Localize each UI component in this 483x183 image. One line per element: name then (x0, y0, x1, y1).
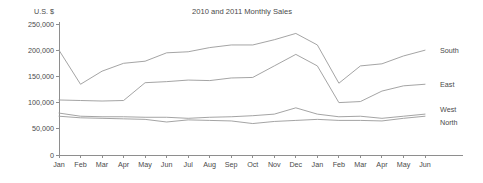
series-label-west: West (440, 105, 456, 114)
x-tick-label: Aug (203, 160, 216, 169)
chart-canvas: 2010 and 2011 Monthly SalesU.S. $050,000… (0, 0, 483, 183)
x-tick-label: Jan (312, 160, 324, 169)
sales-line-chart: 2010 and 2011 Monthly SalesU.S. $050,000… (0, 0, 483, 183)
x-tick-label: Mar (96, 160, 109, 169)
series-label-east: East (440, 80, 454, 89)
y-tick-label: 150,000 (28, 72, 54, 81)
x-tick-label: May (397, 160, 411, 169)
series-line-south (59, 33, 425, 84)
y-tick-label: 100,000 (28, 98, 54, 107)
x-tick-label: Jan (53, 160, 65, 169)
x-tick-label: Feb (74, 160, 86, 169)
y-axis-unit-label: U.S. $ (34, 7, 54, 16)
series-line-east (59, 54, 425, 102)
series-label-north: North (440, 118, 458, 127)
x-tick-label: Oct (247, 160, 258, 169)
series-line-west (59, 108, 425, 118)
y-tick-label: 200,000 (28, 46, 54, 55)
x-tick-label: Dec (289, 160, 302, 169)
x-tick-label: Apr (376, 160, 388, 169)
y-tick-label: 50,000 (32, 124, 54, 133)
x-tick-label: Nov (268, 160, 281, 169)
series-label-south: South (440, 46, 459, 55)
x-tick-label: Apr (118, 160, 130, 169)
x-tick-label: Jun (419, 160, 431, 169)
chart-title: 2010 and 2011 Monthly Sales (192, 7, 292, 16)
y-tick-label: 250,000 (28, 20, 54, 29)
x-tick-label: Sep (225, 160, 238, 169)
x-tick-label: Feb (333, 160, 345, 169)
x-tick-label: May (138, 160, 152, 169)
x-tick-label: Jun (161, 160, 173, 169)
x-tick-label: Mar (354, 160, 367, 169)
x-tick-label: Jul (184, 160, 194, 169)
y-tick-label: 0 (50, 151, 54, 160)
